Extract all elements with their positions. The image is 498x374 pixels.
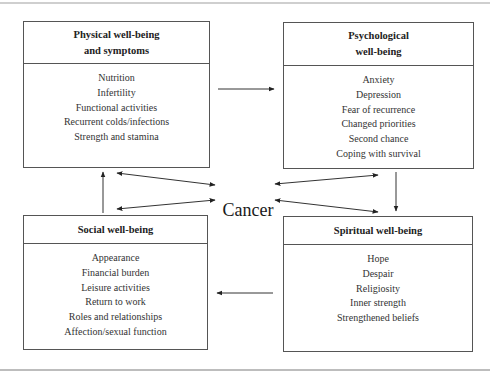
arrow-cancer-social — [117, 200, 215, 209]
bottom-rule — [0, 369, 490, 371]
arrow-cancer-psychological — [275, 175, 378, 184]
arrow-cancer-spiritual — [275, 200, 378, 212]
arrow-cancer-physical — [117, 173, 215, 185]
connector-arrows — [0, 0, 498, 374]
